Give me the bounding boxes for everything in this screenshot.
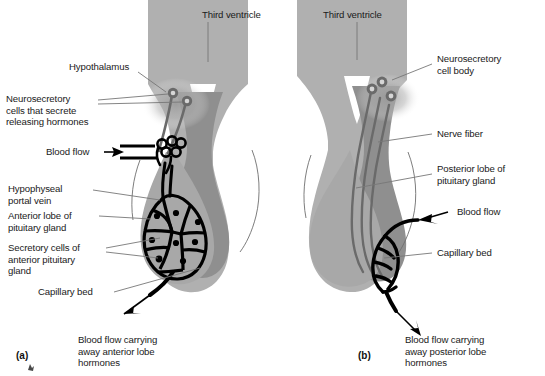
label-posterior-lobe-b: Posterior lobe of pituitary gland xyxy=(437,163,505,186)
label-hypothalamus-a: Hypothalamus xyxy=(69,61,129,73)
panel-id-b: (b) xyxy=(358,350,371,361)
sella-outline-right-a xyxy=(240,150,259,252)
blood-flow-arrow-a xyxy=(104,147,124,157)
label-blood-flow-a: Blood flow xyxy=(46,146,89,158)
label-third-ventricle-b: Third ventricle xyxy=(323,9,382,21)
sella-outline-left-b xyxy=(304,155,311,218)
label-hypophyseal-portal-vein-a: Hypophyseal portal vein xyxy=(8,183,62,206)
panel-id-a: (a) xyxy=(16,350,28,361)
label-blood-flow-b: Blood flow xyxy=(457,206,500,218)
label-anterior-lobe-a: Anterior lobe of pituitary gland xyxy=(8,210,71,233)
venous-outflow-b xyxy=(396,311,421,336)
panel-b-tissue xyxy=(297,0,420,292)
label-third-ventricle-a: Third ventricle xyxy=(202,9,261,21)
blood-inflow-arrow-b xyxy=(418,212,448,224)
label-outflow-a: Blood flow carrying away anterior lobe h… xyxy=(78,334,157,369)
label-secretory-cells-a: Secretory cells of anterior pituitary gl… xyxy=(8,242,80,277)
sella-outline-left-a xyxy=(132,160,140,220)
label-nerve-fiber-b: Nerve fiber xyxy=(437,128,483,140)
anatomical-figure: Third ventricle Hypothalamus Neurosecret… xyxy=(0,0,545,376)
label-capillary-bed-a: Capillary bed xyxy=(38,286,93,298)
scan-artifact-mark xyxy=(28,364,35,372)
blood-inflow-arrows-a xyxy=(120,146,158,158)
hypothalamus-glow-a xyxy=(142,78,210,130)
label-outflow-b: Blood flow carrying away posterior lobe … xyxy=(405,334,486,369)
label-capillary-bed-b: Capillary bed xyxy=(437,247,492,259)
label-neurosecretory-cell-body-b: Neurosecretory cell body xyxy=(437,53,501,76)
label-neurosecretory-cells-a: Neurosecretory cells that secrete releas… xyxy=(6,93,88,128)
